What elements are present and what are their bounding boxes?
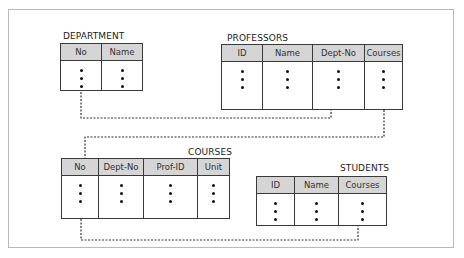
table-title-courses: COURSES [188,147,232,157]
ellipsis-icon [198,176,229,218]
column-header: Name [263,45,312,62]
column-courses: Courses [339,177,386,225]
column-header: Unit [198,159,229,176]
column-no: No [61,44,102,90]
column-header: No [61,44,101,61]
column-header: Dept-No [99,159,143,176]
column-header: No [62,159,98,176]
ellipsis-icon [222,62,262,109]
column-header: Courses [339,177,386,194]
ellipsis-icon [339,194,386,225]
ellipsis-icon [144,176,197,218]
ellipsis-icon [62,176,98,218]
ellipsis-icon [263,62,312,109]
column-courses: Courses [365,45,402,109]
column-prof-id: Prof-ID [144,159,198,218]
table-title-department: DEPARTMENT [63,31,124,41]
column-header: Dept-No [313,45,364,62]
ellipsis-icon [313,62,364,109]
table-professors: ID Name Dept-No Courses [221,44,403,110]
column-id: ID [222,45,263,109]
column-name: Name [102,44,142,90]
column-header: Courses [365,45,402,62]
column-name: Name [295,177,339,225]
table-title-students: STUDENTS [340,163,389,173]
ellipsis-icon [61,61,101,90]
ellipsis-icon [99,176,143,218]
column-header: Prof-ID [144,159,197,176]
table-students: ID Name Courses [256,176,387,226]
column-dept-no: Dept-No [313,45,365,109]
column-dept-no: Dept-No [99,159,144,218]
table-title-professors: PROFESSORS [227,33,288,43]
column-header: Name [295,177,338,194]
column-unit: Unit [198,159,229,218]
table-courses: No Dept-No Prof-ID Unit [61,158,230,219]
column-name: Name [263,45,313,109]
column-header: ID [257,177,294,194]
ellipsis-icon [102,61,142,90]
ellipsis-icon [295,194,338,225]
ellipsis-icon [257,194,294,225]
column-header: Name [102,44,142,61]
ellipsis-icon [365,62,402,109]
column-no: No [62,159,99,218]
column-id: ID [257,177,295,225]
column-header: ID [222,45,262,62]
table-department: No Name [60,43,143,91]
